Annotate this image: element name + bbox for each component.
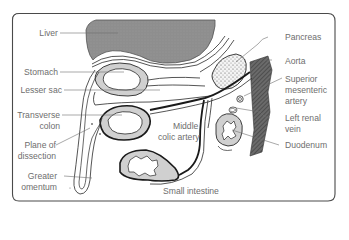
label-pancreas: Pancreas (285, 32, 321, 42)
label-left-renal-vein-line1: Left renal (285, 113, 321, 123)
label-middle-colic-artery-line2: colic artery (158, 132, 200, 142)
label-transverse-colon-line2: colon (12, 121, 60, 131)
label-transverse-colon-line1: Transverse (12, 110, 60, 120)
label-small-intestine: Small intestine (163, 186, 219, 196)
label-sma-line3: artery (285, 96, 307, 106)
label-lesser-sac: Lesser sac (12, 85, 62, 95)
label-stomach: Stomach (16, 67, 58, 77)
label-liver: Liver (20, 28, 58, 38)
label-middle-colic-artery-line1: Middle (173, 121, 198, 131)
label-duodenum: Duodenum (285, 140, 327, 150)
label-greater-omentum-line1: Greater (12, 171, 57, 181)
label-plane-of-dissection-line1: Plane of (12, 140, 56, 150)
label-sma-line2: mesenteric (285, 85, 327, 95)
label-aorta: Aorta (285, 56, 306, 66)
label-sma-line1: Superior (285, 74, 317, 84)
label-greater-omentum-line2: omentum (12, 182, 57, 192)
label-plane-of-dissection-line2: dissection (12, 151, 56, 161)
sma-vessel (237, 96, 243, 102)
label-left-renal-vein-line2: vein (285, 124, 301, 134)
